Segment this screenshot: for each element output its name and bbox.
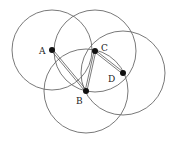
labels: ACDB [38,43,115,106]
segment-ab [53,49,87,90]
circle-diagram: ACDB [0,0,173,142]
label-c: C [101,43,108,53]
segments [51,49,123,91]
label-b: B [76,96,83,106]
point-d [120,70,126,76]
point-c [92,48,98,54]
point-a [49,47,55,53]
label-d: D [108,74,115,84]
segment-ab [51,51,85,92]
label-a: A [38,46,46,56]
segment-cd [96,50,124,72]
circles [12,10,165,133]
point-b [83,88,89,94]
